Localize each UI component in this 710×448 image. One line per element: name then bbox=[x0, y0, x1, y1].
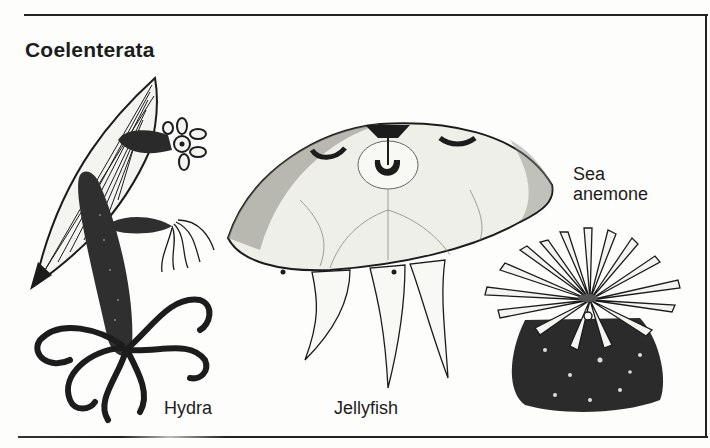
jellyfish-label: Jellyfish bbox=[334, 398, 398, 419]
jellyfish-illustration bbox=[228, 123, 553, 388]
sea-anemone-illustration bbox=[485, 228, 680, 412]
sea-anemone-label: Sea anemone bbox=[573, 164, 648, 204]
sea-anemone-label-line1: Sea bbox=[573, 164, 648, 184]
hydra-label: Hydra bbox=[164, 398, 212, 419]
hydra-illustration bbox=[30, 78, 214, 420]
sea-anemone-label-line2: anemone bbox=[573, 184, 648, 204]
illustrations-canvas bbox=[0, 0, 710, 448]
